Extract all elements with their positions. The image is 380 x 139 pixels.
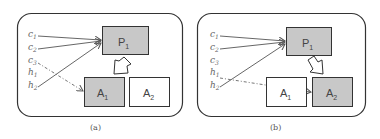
panel-b: c1 c2 c3 h1 h2 P1 A1 A2 (b) [198, 14, 366, 133]
caption-a: (a) [90, 123, 101, 132]
diagram-figure: c1 c2 c3 h1 h2 P1 A1 A2 (a) c1 c2 c3 [0, 0, 380, 139]
panel-a: c1 c2 c3 h1 h2 P1 A1 A2 (a) [18, 14, 183, 133]
caption-b: (b) [270, 123, 281, 132]
policy-box-p1 [103, 27, 149, 55]
action-box-a1 [85, 78, 125, 107]
